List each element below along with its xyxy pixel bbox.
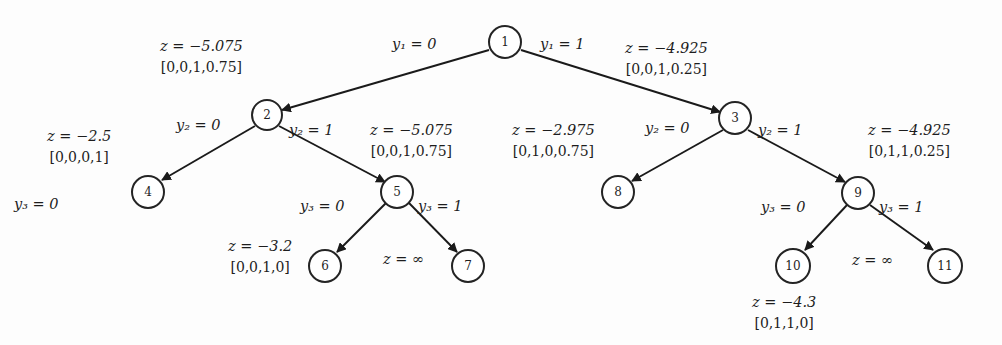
edge-label-2-5: y₂ = 1 [289,122,334,138]
tree-node-11-label: 11 [937,260,952,272]
edge-9-10 [805,205,847,250]
tree-node-9-label: 9 [854,187,862,199]
tree-node-2-label: 2 [263,109,271,121]
node-4-annotation: z = −2.5 [0,0,0,1] [47,126,111,167]
node-5-z: z = −5.075 [370,120,453,141]
node-2-annotation: z = −5.075 [0,0,1,0.75] [160,36,243,77]
node-10-z: z = −4.3 [752,292,816,313]
node-6-solution: [0,0,1,0] [228,257,292,277]
node-3-solution: [0,0,1,0.25] [625,59,708,79]
tree-node-6-label: 6 [321,260,329,272]
edge-label-3-9: y₂ = 1 [758,122,803,138]
tree-node-7[interactable]: 7 [451,249,485,283]
stray-branch-label: y₃ = 0 [14,196,59,212]
node-5-solution: [0,0,1,0.75] [370,141,453,161]
node-2-z: z = −5.075 [160,36,243,57]
tree-node-5-label: 5 [393,186,401,198]
edge-2-4 [162,126,255,180]
edge-3-8 [632,130,723,181]
tree-node-1-label: 1 [501,36,509,48]
tree-node-4-label: 4 [144,186,152,198]
node-8-z: z = −2.975 [512,120,595,141]
node-3-z: z = −4.925 [625,38,708,59]
node-5-annotation: z = −5.075 [0,0,1,0.75] [370,120,453,161]
tree-node-8-label: 8 [614,186,622,198]
node-10-annotation: z = −4.3 [0,1,1,0] [752,292,816,333]
tree-node-6[interactable]: 6 [308,249,342,283]
node-8-solution: [0,1,0,0.75] [512,141,595,161]
tree-node-4[interactable]: 4 [131,175,165,209]
edge-label-2-4: y₂ = 0 [176,117,221,133]
tree-node-10[interactable]: 10 [775,248,811,284]
tree-node-9[interactable]: 9 [841,176,875,210]
edge-label-1-2: y₁ = 0 [392,36,437,52]
tree-node-1[interactable]: 1 [488,25,522,59]
node-8-annotation: z = −2.975 [0,1,0,0.75] [512,120,595,161]
tree-node-11[interactable]: 11 [927,248,963,284]
edge-label-9-10: y₃ = 0 [761,199,806,215]
node-11-annotation: z = ∞ [852,252,893,268]
branch-and-bound-diagram: 1 2 3 4 5 6 7 8 9 10 11 y₁ = 0 y₁ = 1 y₂… [0,0,1002,345]
edge-label-9-11: y₃ = 1 [879,199,924,215]
tree-node-5[interactable]: 5 [380,175,414,209]
node-9-z: z = −4.925 [868,120,951,141]
node-10-solution: [0,1,1,0] [752,313,816,333]
edge-label-1-3: y₁ = 1 [540,36,585,52]
node-6-annotation: z = −3.2 [0,0,1,0] [228,236,292,277]
tree-node-7-label: 7 [464,260,472,272]
node-4-solution: [0,0,0,1] [47,147,111,167]
edge-label-3-8: y₂ = 0 [645,120,690,136]
node-11-z: z = ∞ [852,252,893,268]
tree-node-10-label: 10 [785,260,800,272]
node-9-solution: [0,1,1,0.25] [868,141,951,161]
node-9-annotation: z = −4.925 [0,1,1,0.25] [868,120,951,161]
node-7-annotation: z = ∞ [383,251,424,267]
tree-node-8[interactable]: 8 [601,175,635,209]
edge-label-5-6: y₃ = 0 [300,198,345,214]
node-7-z: z = ∞ [383,251,424,267]
node-2-solution: [0,0,1,0.75] [160,57,243,77]
node-4-z: z = −2.5 [47,126,111,147]
tree-node-3[interactable]: 3 [718,101,752,135]
edge-1-2 [282,50,489,110]
node-3-annotation: z = −4.925 [0,0,1,0.25] [625,38,708,79]
edge-label-5-7: y₃ = 1 [418,198,463,214]
tree-node-3-label: 3 [731,112,739,124]
node-6-z: z = −3.2 [228,236,292,257]
tree-node-2[interactable]: 2 [251,99,283,131]
